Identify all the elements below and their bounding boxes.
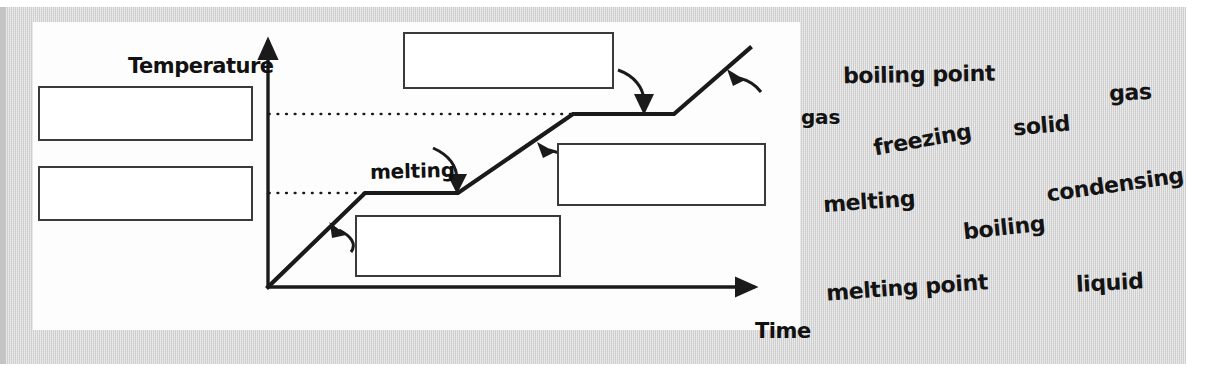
callout-label-gas: gas [801,105,840,129]
worksheet-page: heater [0,0,1231,375]
word-bank-item-solid[interactable]: solid [1012,111,1071,141]
word-bank-item-boiling-point[interactable]: boiling point [843,61,995,89]
answer-box-bottom-center[interactable] [355,215,561,277]
answer-box-right-middle[interactable] [557,143,766,206]
arrow-to-gas-segment [727,69,761,92]
diagram-card: heater [33,22,800,330]
x-axis-label: Time [755,319,811,343]
arrow-to-solid-segment [329,222,353,252]
panel-left-edge [0,7,6,364]
y-axis-label: Temperature [128,54,274,78]
word-bank-item-gas[interactable]: gas [1108,79,1152,106]
answer-box-top-center[interactable] [403,32,614,89]
answer-box-left-bottom[interactable] [38,166,253,221]
answer-box-left-top[interactable] [38,86,253,141]
arrow-to-boiling-plateau [618,70,654,115]
callout-label-melting: melting [370,158,455,184]
word-bank-item-liquid[interactable]: liquid [1075,268,1144,296]
